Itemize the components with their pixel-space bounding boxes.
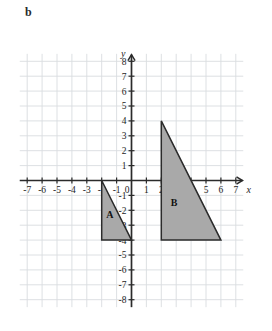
x-tick-label: -6 (38, 185, 46, 195)
y-tick-label: -8 (119, 295, 127, 305)
x-tick-label: -3 (83, 185, 91, 195)
y-tick-label: 7 (122, 72, 127, 82)
figure-root: b -7-6-5-4-3-2-1123456787654321-1-2-3-4-… (0, 0, 272, 331)
x-tick-label: 7 (233, 185, 238, 195)
x-tick-label: -7 (23, 185, 31, 195)
x-tick-label: -4 (68, 185, 76, 195)
x-tick-label: 1 (144, 185, 149, 195)
x-axis-name: x (246, 184, 252, 195)
y-tick-label: -5 (119, 250, 127, 260)
y-tick-label: 3 (122, 131, 127, 141)
y-tick-label: -7 (119, 280, 127, 290)
y-tick-label: -2 (119, 206, 127, 216)
y-tick-label: 6 (122, 87, 127, 97)
shape-label-b: B (171, 197, 178, 208)
y-tick-label: 2 (122, 146, 127, 156)
y-tick-label: -6 (119, 265, 127, 275)
axis-lines (20, 55, 243, 308)
x-tick-label: 6 (219, 185, 224, 195)
x-tick-label: -5 (53, 185, 61, 195)
x-tick-label: 5 (204, 185, 209, 195)
y-axis-name: y (120, 48, 126, 59)
y-tick-label: 5 (122, 101, 127, 111)
y-tick-label: 4 (122, 116, 127, 126)
origin-label: 0 (125, 185, 130, 195)
y-tick-label: 1 (122, 161, 127, 171)
coordinate-grid-plot: -7-6-5-4-3-2-1123456787654321-1-2-3-4-5-… (0, 0, 272, 331)
shape-label-a: A (106, 209, 114, 220)
